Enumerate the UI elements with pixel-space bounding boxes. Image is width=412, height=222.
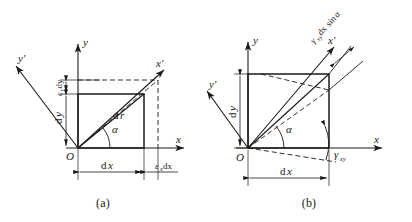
line-element-dr — [78, 94, 144, 148]
label-dy: d y — [52, 112, 64, 124]
axis-y-prime-label: y' — [17, 52, 26, 64]
angle-alpha-label: α — [112, 123, 118, 135]
label-dy: d y — [226, 106, 238, 118]
origin-label: O — [236, 151, 244, 163]
panel-a-caption: (a) — [0, 196, 206, 211]
angle-alpha-label: α — [286, 123, 292, 135]
axis-y-label: y — [82, 36, 88, 48]
sheared-diagonal-dashed — [248, 90, 329, 148]
label-gamma-xy-dx-sin-alpha: γ xy dx sin α — [308, 9, 343, 46]
panel-b-caption: (b) — [206, 196, 412, 211]
panel-a: y x y' x' O α d r d x ε x dx — [0, 0, 206, 222]
svg-text:d: d — [101, 159, 107, 171]
strain-diagram-figure: y x y' x' O α d r d x ε x dx — [0, 0, 412, 222]
angle-alpha-arc — [103, 128, 110, 148]
angle-gamma-xy-arc — [325, 126, 329, 160]
svg-text:x: x — [286, 165, 292, 177]
svg-text:dx: dx — [163, 161, 173, 171]
svg-text:ε: ε — [54, 92, 64, 96]
panel-a-drawing: y x y' x' O α d r d x ε x dx — [0, 0, 206, 222]
label-dx: d x — [280, 165, 292, 177]
svg-text:dy: dy — [54, 79, 64, 89]
svg-text:r: r — [120, 109, 125, 121]
origin-label: O — [66, 150, 74, 162]
axis-y-prime — [207, 91, 248, 148]
svg-text:γ: γ — [334, 148, 339, 160]
svg-text:y: y — [52, 112, 64, 118]
panel-b: y x y' x' O α γ xy γ xy dx sin α d x — [206, 0, 412, 222]
axis-y-prime — [16, 66, 78, 148]
svg-text:x: x — [107, 159, 113, 171]
sheared-parallelogram-dashed — [248, 74, 336, 162]
line-element-dr — [248, 74, 329, 148]
angle-alpha-arc — [276, 126, 284, 148]
label-epsilon-y-dy: ε y dy — [54, 79, 65, 96]
axis-y-prime-label: y' — [208, 78, 217, 90]
svg-text:ε: ε — [155, 161, 159, 171]
svg-text:d: d — [113, 109, 119, 121]
panel-b-drawing: y x y' x' O α γ xy γ xy dx sin α d x — [206, 0, 412, 222]
svg-text:d: d — [280, 165, 286, 177]
dim-gamma-displacement — [335, 47, 354, 63]
axis-x-label: x — [373, 133, 379, 145]
axis-x-prime-label: x' — [327, 34, 336, 46]
label-dx: d x — [101, 159, 113, 171]
axis-x-prime-label: x' — [155, 57, 164, 69]
displacement-leader-inner — [329, 61, 363, 90]
svg-text:y: y — [226, 106, 238, 112]
svg-text:d: d — [226, 112, 238, 118]
displacement-leader-outer — [329, 46, 351, 74]
svg-text:xy: xy — [339, 155, 346, 162]
svg-text:d: d — [52, 118, 64, 124]
label-epsilon-x-dx: ε x dx — [155, 161, 173, 172]
label-gamma-xy-angle: γ xy — [334, 148, 346, 162]
axis-x-label: x — [175, 133, 181, 145]
axis-y-label: y — [252, 34, 258, 46]
